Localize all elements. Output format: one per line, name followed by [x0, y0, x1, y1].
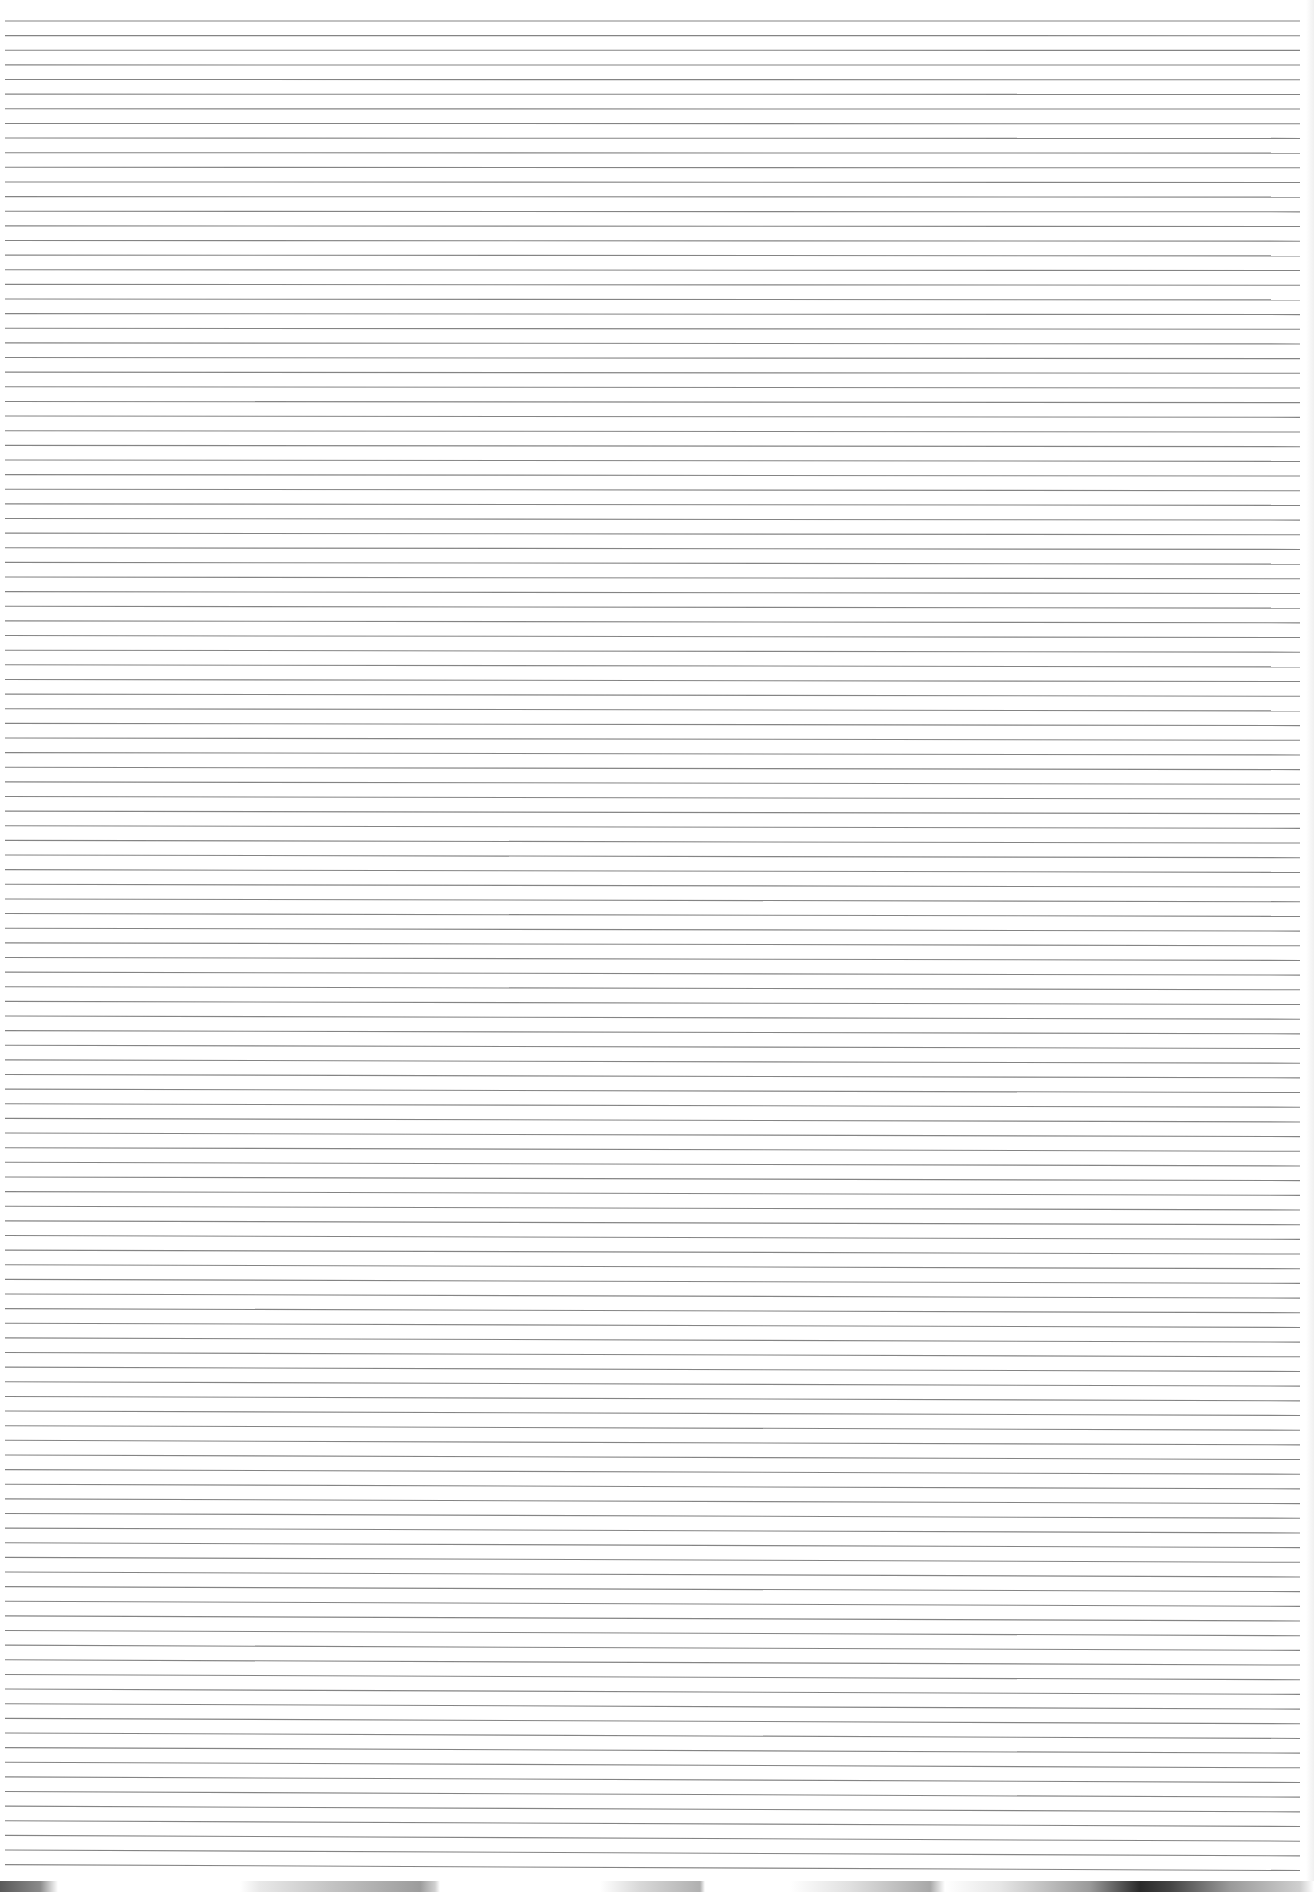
ruled-line	[5, 738, 1300, 740]
ruled-line	[5, 1587, 1300, 1592]
ruled-line	[5, 1133, 1300, 1137]
ruled-line	[5, 1396, 1300, 1400]
ruled-line	[5, 957, 1300, 960]
ruled-line	[5, 489, 1300, 491]
ruled-line	[5, 592, 1300, 594]
ruled-line	[5, 1016, 1300, 1019]
ruled-line	[5, 1162, 1300, 1166]
ruled-line	[5, 1206, 1300, 1210]
ruled-line	[5, 460, 1300, 461]
ruled-line	[5, 328, 1300, 329]
ruled-line	[5, 475, 1300, 476]
ruled-line	[5, 709, 1300, 711]
ruled-line	[5, 343, 1300, 344]
ruled-line	[5, 1382, 1300, 1386]
ruled-line	[5, 1118, 1300, 1122]
ruled-line	[5, 1762, 1300, 1768]
ruled-line	[5, 1645, 1300, 1650]
ruled-line	[5, 1865, 1300, 1871]
ruled-line	[5, 1440, 1300, 1445]
ruled-line	[5, 284, 1300, 285]
ruled-line	[5, 811, 1300, 814]
ruled-line	[5, 270, 1300, 271]
ruled-line	[5, 1411, 1300, 1415]
ruled-line	[5, 358, 1300, 359]
ruled-line	[5, 1791, 1300, 1797]
ruled-line	[5, 1704, 1300, 1709]
ruled-line	[5, 1426, 1300, 1431]
ruled-line	[5, 753, 1300, 755]
ruled-line	[5, 1513, 1300, 1518]
ruled-line	[5, 431, 1300, 432]
ruled-line	[5, 899, 1300, 902]
ruled-line	[5, 621, 1300, 623]
ruled-line	[5, 1777, 1300, 1783]
ruled-line	[5, 1031, 1300, 1034]
ruled-line	[5, 1279, 1300, 1283]
ruled-line	[5, 840, 1300, 843]
ruled-line	[5, 240, 1300, 241]
ruled-line	[5, 855, 1300, 858]
ruled-line	[5, 1733, 1300, 1738]
ruled-line	[5, 1470, 1300, 1475]
ruled-line	[5, 1323, 1300, 1327]
ruled-line	[5, 1806, 1300, 1812]
ruled-line	[5, 1045, 1300, 1048]
ruled-line	[5, 1192, 1300, 1196]
ruled-line	[5, 416, 1300, 417]
ruled-line	[5, 226, 1300, 227]
ruled-line	[5, 1616, 1300, 1621]
ruled-line	[5, 1528, 1300, 1533]
ruled-line	[5, 1543, 1300, 1548]
ruled-line	[5, 606, 1300, 608]
ruled-line	[5, 1001, 1300, 1004]
ruled-line	[5, 197, 1300, 198]
ruled-line	[5, 1235, 1300, 1239]
ruled-line	[5, 1748, 1300, 1754]
ruled-line	[5, 914, 1300, 917]
ruled-line	[5, 1177, 1300, 1181]
ruled-line	[5, 1557, 1300, 1562]
ruled-line	[5, 782, 1300, 784]
ruled-line	[5, 694, 1300, 696]
ruled-line	[5, 1265, 1300, 1269]
ruled-line	[5, 445, 1300, 446]
ruled-line	[5, 1660, 1300, 1665]
ruled-line	[5, 577, 1300, 579]
ruled-line	[5, 562, 1300, 564]
ruled-line	[5, 679, 1300, 681]
ruled-line	[5, 928, 1300, 931]
ruled-line	[5, 665, 1300, 667]
ruled-line	[5, 1850, 1300, 1856]
ruled-line	[5, 943, 1300, 946]
ruled-line	[5, 1104, 1300, 1107]
ruled-line	[5, 1367, 1300, 1371]
ruled-line	[5, 1353, 1300, 1357]
ruled-line	[5, 1572, 1300, 1577]
ruled-line	[5, 650, 1300, 652]
ruled-line	[5, 401, 1300, 402]
ruled-line	[5, 1338, 1300, 1342]
ruled-line	[5, 723, 1300, 725]
ruled-line	[5, 1499, 1300, 1504]
ruled-line	[5, 1075, 1300, 1078]
paper-right-edge-shadow	[1306, 0, 1314, 1881]
scanner-bottom-edge	[0, 1881, 1314, 1892]
ruled-line	[5, 518, 1300, 520]
ruled-line	[5, 1484, 1300, 1489]
ruled-line	[5, 1689, 1300, 1694]
ruled-line	[5, 987, 1300, 990]
ruled-line	[5, 211, 1300, 212]
ruled-line	[5, 548, 1300, 550]
ruled-line	[5, 1309, 1300, 1313]
ruled-line	[5, 1674, 1300, 1679]
ruled-line	[5, 533, 1300, 535]
ruled-lines	[0, 0, 1314, 1892]
ruled-line	[5, 255, 1300, 256]
ruled-line	[5, 797, 1300, 799]
ruled-line	[5, 182, 1300, 183]
ruled-line	[5, 1601, 1300, 1606]
ruled-line	[5, 1835, 1300, 1841]
ruled-line	[5, 972, 1300, 975]
ruled-line	[5, 1221, 1300, 1225]
